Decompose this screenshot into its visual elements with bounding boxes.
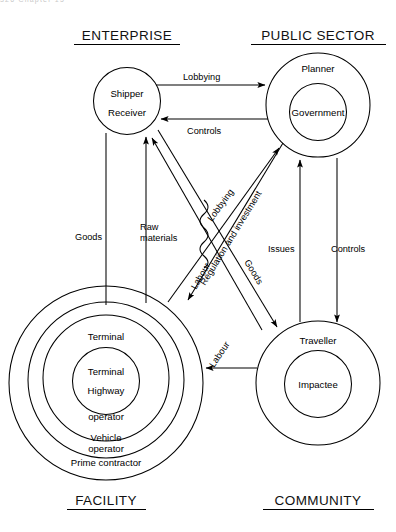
edge-controls-top: Controls bbox=[161, 119, 268, 136]
community-label-traveller: Traveller bbox=[300, 335, 338, 346]
edge-lobbying-top-label: Lobbying bbox=[183, 72, 220, 82]
facility-label-terminal-inner: Terminal bbox=[88, 366, 124, 377]
edge-lobbying-diagonal-label: Lobbying bbox=[206, 187, 236, 223]
facility-label-terminal-ring: Terminal bbox=[88, 331, 124, 342]
edge-labour-horizontal-label: Labour bbox=[207, 340, 231, 369]
edge-issues: Issues bbox=[268, 160, 300, 322]
edge-lobbying-top: Lobbying bbox=[156, 72, 265, 85]
edge-goods-diagonal-label: Goods bbox=[242, 258, 265, 287]
edge-goods-diagonal: Goods bbox=[158, 130, 277, 327]
title-public-sector-text: PUBLIC SECTOR bbox=[261, 28, 375, 43]
quadrant-title-enterprise: ENTERPRISE bbox=[74, 28, 180, 45]
community-label-impactee: Impactee bbox=[298, 379, 337, 390]
quadrant-title-public-sector: PUBLIC SECTOR bbox=[251, 28, 386, 45]
public-sector-label-government: Government bbox=[292, 107, 345, 118]
facility-label-highway-inner: Highway bbox=[88, 385, 125, 396]
edge-labour-horizontal: Labour bbox=[206, 340, 257, 369]
enterprise-label-shipper: Shipper bbox=[110, 88, 144, 99]
edge-goods-left: Goods bbox=[75, 133, 106, 305]
facility-label-prime-contractor: Prime contractor bbox=[71, 457, 142, 468]
title-enterprise-text: ENTERPRISE bbox=[82, 28, 172, 43]
edge-raw-materials: Raw materials bbox=[140, 137, 178, 303]
facility-label-vehicle-operator: operator bbox=[88, 443, 125, 454]
public-sector-label-planner: Planner bbox=[301, 63, 335, 74]
edge-raw-materials-label-1: Raw bbox=[140, 222, 159, 232]
enterprise-ring-outer bbox=[94, 68, 161, 135]
node-facility[interactable]: Prime contractor Vehicle operator Termin… bbox=[9, 286, 203, 480]
facility-ring-terminal-highway bbox=[73, 348, 140, 415]
actor-relationship-diagram: ENTERPRISE PUBLIC SECTOR FACILITY COMMUN… bbox=[0, 0, 396, 532]
node-public-sector[interactable]: Planner Government bbox=[266, 53, 370, 157]
node-community[interactable]: Traveller Impactee bbox=[256, 321, 380, 445]
edge-controls-top-label: Controls bbox=[187, 126, 222, 136]
edge-raw-materials-label-2: materials bbox=[140, 233, 178, 243]
quadrant-title-facility: FACILITY bbox=[67, 493, 146, 510]
edge-issues-label: Issues bbox=[268, 244, 295, 254]
edge-goods-left-label: Goods bbox=[75, 232, 102, 242]
title-community-text: COMMUNITY bbox=[275, 493, 362, 508]
edge-controls-right: Controls bbox=[331, 158, 366, 322]
title-facility-text: FACILITY bbox=[75, 493, 137, 508]
edge-controls-right-label: Controls bbox=[331, 244, 366, 254]
node-enterprise[interactable]: Shipper Receiver bbox=[94, 68, 161, 135]
enterprise-label-receiver: Receiver bbox=[108, 107, 147, 118]
diagram-canvas: 326 Chapter 15 ENTERPRISE PUBLIC SECTOR … bbox=[0, 0, 396, 532]
quadrant-title-community: COMMUNITY bbox=[263, 493, 374, 510]
